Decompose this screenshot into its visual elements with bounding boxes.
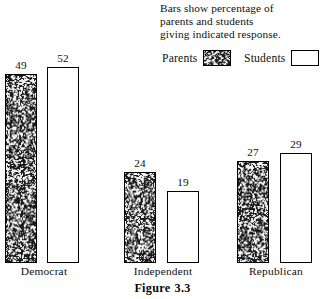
bar-value-independent-students: 19 [167,176,199,188]
bar-value-republican-parents: 27 [237,146,269,158]
bar-democrat-parents [5,74,37,263]
figure-caption: Figure3.3 [0,281,325,296]
figure-caption-number: 3.3 [174,281,190,295]
group-label-independent: Independent [113,265,213,277]
bar-chart-plot-area: 49 52 Democrat 24 19 Independent 27 29 R… [0,0,325,266]
bar-independent-parents [124,172,156,263]
group-label-democrat: Democrat [0,265,94,277]
bar-value-republican-students: 29 [280,138,312,150]
group-label-republican: Republican [226,265,325,277]
bar-value-democrat-students: 52 [47,52,79,64]
figure-caption-word: Figure [134,281,170,295]
bar-republican-students [280,153,312,263]
bar-independent-students [167,191,199,263]
bar-value-independent-parents: 24 [124,157,156,169]
bar-democrat-students [47,67,79,263]
bar-republican-parents [237,161,269,263]
bar-value-democrat-parents: 49 [5,59,37,71]
